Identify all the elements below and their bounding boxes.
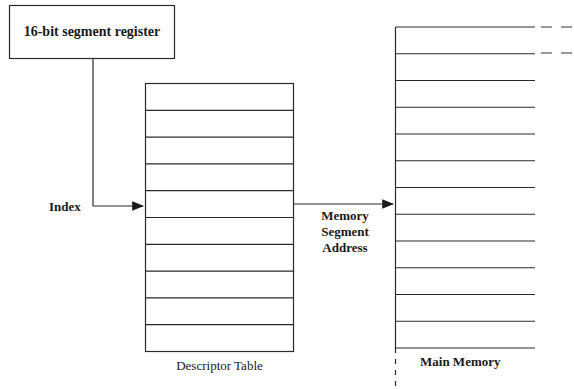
diagram-canvas bbox=[0, 0, 574, 389]
segment-register-label: 16-bit segment register bbox=[9, 24, 175, 40]
index-label: Index bbox=[49, 199, 81, 215]
main-memory-label: Main Memory bbox=[420, 354, 501, 370]
descriptor-table bbox=[146, 84, 294, 352]
continuation-dashes bbox=[541, 27, 572, 53]
main-memory bbox=[396, 27, 536, 388]
memory-label-line1: Memory bbox=[300, 208, 390, 224]
index-connector bbox=[93, 59, 143, 206]
descriptor-table-label: Descriptor Table bbox=[145, 358, 294, 374]
memory-label-line2: Segment bbox=[300, 224, 390, 240]
memory-label-line3: Address bbox=[300, 240, 390, 256]
